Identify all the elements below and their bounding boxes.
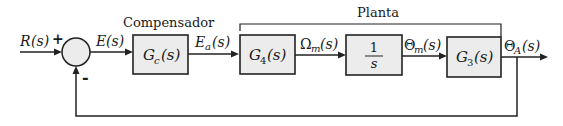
- block-diagram: R (s) + - E (s) Compensador G c (s) E a …: [0, 0, 563, 126]
- plant-group: Planta: [240, 5, 501, 37]
- g3-block: G 3 (s): [447, 37, 501, 77]
- compensator-sub: c: [154, 55, 160, 66]
- plus-sign: +: [52, 31, 64, 47]
- input-label-main: R: [19, 33, 31, 49]
- error-label-main: E: [95, 33, 106, 49]
- omega-m-signal: Ω m (s): [295, 36, 346, 59]
- g4-block: G 4 (s): [240, 35, 295, 74]
- integrator-denominator: s: [371, 56, 378, 71]
- g4-arg: (s): [267, 46, 287, 64]
- integrator-block: 1 s: [346, 35, 402, 75]
- omega-m-label-main: Ω: [300, 36, 312, 52]
- error-label-arg: (s): [106, 33, 124, 49]
- ea-label-arg: (s): [212, 34, 230, 50]
- ea-signal: E a (s): [188, 34, 239, 58]
- error-signal: E (s): [90, 33, 133, 56]
- omega-m-label-arg: (s): [320, 36, 338, 52]
- theta-a-label-sub: A: [513, 45, 521, 56]
- g3-sub: 3: [467, 57, 473, 68]
- compensator-arg: (s): [161, 46, 181, 64]
- compensator-caption: Compensador: [123, 15, 215, 30]
- ea-label-main: E: [194, 34, 205, 50]
- integrator-numerator: 1: [370, 40, 378, 55]
- g3-arg: (s): [474, 48, 494, 66]
- ea-label-sub: a: [205, 41, 211, 52]
- theta-m-signal: Θ m (s): [402, 37, 447, 60]
- input-label-arg: (s): [31, 33, 49, 49]
- output-signal: Θ A (s): [501, 38, 548, 61]
- input-signal: R (s) +: [19, 31, 64, 56]
- minus-sign: -: [82, 68, 89, 87]
- theta-a-label-arg: (s): [522, 38, 540, 54]
- g4-sub: 4: [260, 55, 266, 66]
- theta-m-label-arg: (s): [423, 37, 441, 53]
- plant-caption: Planta: [357, 5, 399, 20]
- summing-junction-circle: [62, 38, 90, 66]
